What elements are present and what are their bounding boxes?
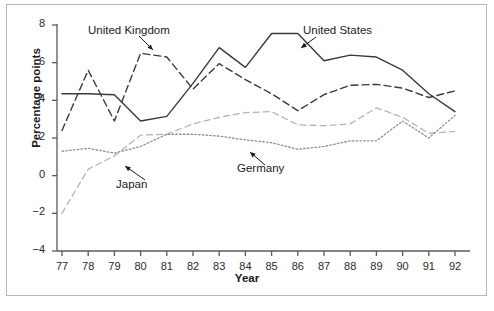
series-line-united-states bbox=[62, 33, 455, 121]
series-line-japan bbox=[62, 108, 455, 213]
x-tick-label: 91 bbox=[415, 260, 443, 272]
chart-figure: Percentage points Year United Kingdom Un… bbox=[0, 0, 494, 311]
annotation-arrow-united-kingdom bbox=[139, 36, 153, 50]
series-annotation-japan: Japan bbox=[116, 178, 147, 190]
x-tick-label: 90 bbox=[389, 260, 417, 272]
series-annotation-germany: Germany bbox=[237, 162, 284, 174]
y-tick-label: 2 bbox=[11, 130, 45, 142]
series-annotation-united-kingdom: United Kingdom bbox=[88, 24, 170, 36]
y-tick-label: 8 bbox=[11, 17, 45, 29]
series-line-germany bbox=[62, 115, 455, 153]
x-tick-label: 82 bbox=[179, 260, 207, 272]
x-tick-label: 88 bbox=[336, 260, 364, 272]
axes bbox=[57, 24, 470, 251]
x-tick-label: 81 bbox=[153, 260, 181, 272]
x-tick-label: 85 bbox=[258, 260, 286, 272]
y-tick-label: 6 bbox=[11, 55, 45, 67]
x-tick-label: 86 bbox=[284, 260, 312, 272]
x-tick-label: 92 bbox=[441, 260, 469, 272]
x-tick-label: 77 bbox=[48, 260, 76, 272]
y-tick-label: 0 bbox=[11, 168, 45, 180]
series-line-united-kingdom bbox=[62, 53, 455, 130]
x-tick-label: 79 bbox=[100, 260, 128, 272]
x-tick-label: 78 bbox=[74, 260, 102, 272]
y-tick-label: 4 bbox=[11, 92, 45, 104]
x-tick-label: 87 bbox=[310, 260, 338, 272]
x-tick-label: 84 bbox=[231, 260, 259, 272]
y-tick-label: −4 bbox=[11, 243, 45, 255]
x-tick-label: 89 bbox=[362, 260, 390, 272]
y-tick-label: −2 bbox=[11, 205, 45, 217]
series-annotation-united-states: United States bbox=[303, 24, 372, 36]
x-tick-label: 83 bbox=[205, 260, 233, 272]
x-axis-title: Year bbox=[0, 272, 494, 284]
x-tick-label: 80 bbox=[127, 260, 155, 272]
